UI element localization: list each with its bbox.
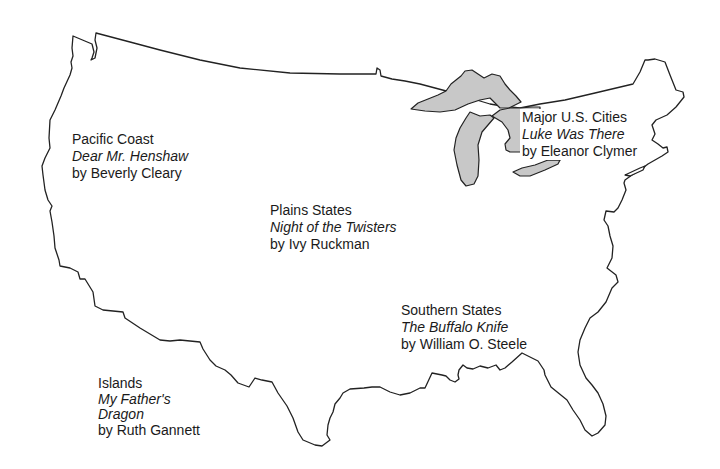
book-author: by Ruth Gannett [98, 422, 208, 439]
book-author: by Ivy Ruckman [270, 236, 397, 253]
region-name: Southern States [401, 302, 527, 319]
book-author: by Beverly Cleary [72, 165, 188, 182]
book-title: Night of the Twisters [270, 219, 397, 236]
region-name: Islands [98, 375, 208, 392]
region-name: Plains States [270, 202, 397, 219]
label-major-cities: Major U.S. Cities Luke Was There by Elea… [520, 109, 637, 160]
label-pacific-coast: Pacific Coast Dear Mr. Henshaw by Beverl… [72, 131, 188, 182]
book-author: by William O. Steele [401, 336, 527, 353]
book-title: My Father's Dragon [98, 392, 208, 422]
book-title: The Buffalo Knife [401, 319, 527, 336]
book-title: Dear Mr. Henshaw [72, 148, 188, 165]
book-title: Luke Was There [522, 126, 637, 143]
book-author: by Eleanor Clymer [522, 143, 637, 160]
region-name: Pacific Coast [72, 131, 188, 148]
label-southern-states: Southern States The Buffalo Knife by Wil… [401, 302, 527, 353]
label-plains-states: Plains States Night of the Twisters by I… [270, 202, 397, 253]
label-islands: Islands My Father's Dragon by Ruth Ganne… [98, 375, 208, 439]
region-name: Major U.S. Cities [522, 109, 637, 126]
